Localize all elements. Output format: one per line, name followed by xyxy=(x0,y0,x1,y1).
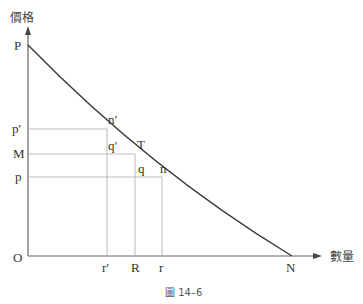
label-M: M xyxy=(13,146,25,161)
figure-caption: 圖 14–6 xyxy=(165,287,202,298)
label-P: P xyxy=(14,38,21,53)
x-axis-label: 數量 xyxy=(330,250,354,264)
x-axis-arrow-icon xyxy=(313,253,322,259)
label-R: R xyxy=(131,260,140,275)
label-n-prime: n′ xyxy=(108,112,118,127)
y-axis-arrow-icon xyxy=(25,26,31,35)
label-q: q xyxy=(138,161,145,176)
label-p: p xyxy=(15,169,22,184)
demand-curve xyxy=(28,45,292,256)
demand-curve-diagram: 價格 數量 O P p′ M p n′ q′ T q n r′ R r N 圖 … xyxy=(0,0,363,304)
origin-label: O xyxy=(13,250,22,265)
y-axis-label: 價格 xyxy=(10,10,34,25)
label-q-prime: q′ xyxy=(108,138,118,153)
label-n: n xyxy=(160,161,167,176)
label-T: T xyxy=(137,137,145,152)
label-p-prime: p′ xyxy=(12,121,22,136)
label-r: r xyxy=(159,260,164,275)
label-r-prime: r′ xyxy=(102,260,109,275)
label-N: N xyxy=(286,260,296,275)
